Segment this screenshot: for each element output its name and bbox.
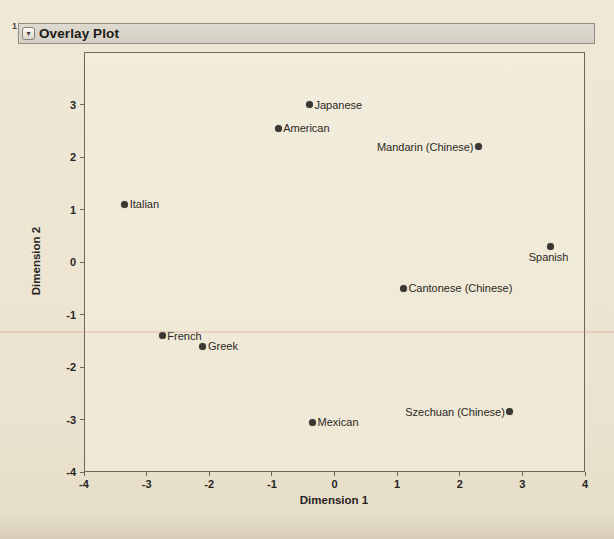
data-point-label: Mandarin (Chinese): [377, 141, 474, 154]
data-point-marker[interactable]: [121, 201, 128, 208]
data-point-label: Japanese: [314, 99, 362, 112]
data-point-marker[interactable]: [547, 243, 554, 250]
data-point-marker[interactable]: [306, 101, 313, 108]
y-tick-label: -2: [52, 360, 76, 374]
y-tick: [80, 209, 84, 210]
disclosure-button[interactable]: ▾: [22, 27, 35, 40]
y-axis-title: Dimension 2: [30, 211, 42, 311]
y-tick-label: -3: [52, 413, 76, 427]
y-tick-label: 3: [52, 98, 76, 112]
y-tick: [80, 472, 84, 473]
x-tick-label: 4: [570, 478, 600, 490]
data-point-marker[interactable]: [475, 143, 482, 150]
x-axis-title: Dimension 1: [264, 494, 404, 506]
page-shadow: [0, 513, 614, 539]
x-tick: [459, 472, 460, 476]
triangle-down-icon: ▾: [26, 29, 30, 37]
page-margin-mark: 1: [12, 21, 17, 31]
y-tick-label: 1: [52, 203, 76, 217]
x-tick: [585, 472, 586, 476]
data-point-label: Spanish: [529, 251, 569, 264]
x-tick-label: 0: [320, 478, 350, 490]
data-point-label: Mexican: [318, 416, 359, 429]
x-tick-label: -4: [69, 478, 99, 490]
x-tick: [209, 472, 210, 476]
x-tick-label: 1: [382, 478, 412, 490]
x-tick: [146, 472, 147, 476]
data-point-label: Szechuan (Chinese): [405, 406, 505, 419]
y-tick: [80, 314, 84, 315]
data-point-marker[interactable]: [309, 419, 316, 426]
x-tick-label: -2: [194, 478, 224, 490]
y-tick: [80, 157, 84, 158]
y-tick-label: -1: [52, 308, 76, 322]
x-tick-label: -1: [257, 478, 287, 490]
scanned-page: 1 ▾ Overlay Plot -4-3-2-101234-4-3-2-101…: [0, 0, 614, 539]
x-tick: [522, 472, 523, 476]
y-tick-label: 0: [52, 255, 76, 269]
data-point-marker[interactable]: [159, 332, 166, 339]
y-tick: [80, 419, 84, 420]
data-point-marker[interactable]: [400, 285, 407, 292]
y-tick: [80, 104, 84, 105]
data-point-label: Greek: [208, 340, 238, 353]
outline-title-bar[interactable]: ▾ Overlay Plot: [18, 23, 595, 44]
x-tick-label: 3: [507, 478, 537, 490]
x-tick-label: -3: [132, 478, 162, 490]
y-tick-label: 2: [52, 150, 76, 164]
y-tick: [80, 262, 84, 263]
x-tick: [271, 472, 272, 476]
x-tick: [334, 472, 335, 476]
x-tick: [84, 472, 85, 476]
data-point-marker[interactable]: [275, 125, 282, 132]
x-tick-label: 2: [445, 478, 475, 490]
y-tick-label: -4: [52, 465, 76, 479]
x-tick: [397, 472, 398, 476]
data-point-label: French: [167, 330, 201, 343]
y-tick: [80, 367, 84, 368]
data-point-label: Cantonese (Chinese): [408, 282, 512, 295]
data-point-label: American: [283, 122, 329, 135]
report-title: Overlay Plot: [39, 26, 119, 41]
data-point-label: Italian: [130, 198, 159, 211]
